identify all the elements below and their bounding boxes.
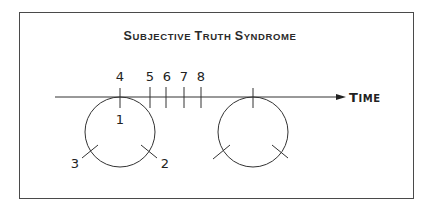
diagram-title: SUBJECTIVE TRUTH SYNDROME <box>124 29 297 43</box>
time-axis-label: TIME <box>349 90 381 105</box>
circle-label-2: 2 <box>161 156 169 171</box>
tick-label-7: 7 <box>180 69 188 84</box>
circle-left: 1 3 2 <box>71 97 169 171</box>
timeline-ticks: 4 5 6 7 8 <box>116 69 205 108</box>
circle-tick-lower-left <box>82 145 98 158</box>
tick-label-8: 8 <box>197 69 205 84</box>
tick-label-6: 6 <box>163 69 171 84</box>
circle-label-3: 3 <box>71 156 79 171</box>
circle-tick-lower-right <box>141 145 157 158</box>
circle-tick-lower-right <box>272 145 288 158</box>
subjective-truth-diagram: SUBJECTIVE TRUTH SYNDROME TIME 4 5 6 7 8… <box>0 0 435 203</box>
time-axis: TIME <box>55 90 381 105</box>
circle-label-1: 1 <box>116 112 124 127</box>
tick-label-4: 4 <box>116 69 124 84</box>
tick-label-5: 5 <box>146 69 154 84</box>
arrow-head-icon <box>336 94 346 100</box>
circle-right <box>213 88 288 167</box>
